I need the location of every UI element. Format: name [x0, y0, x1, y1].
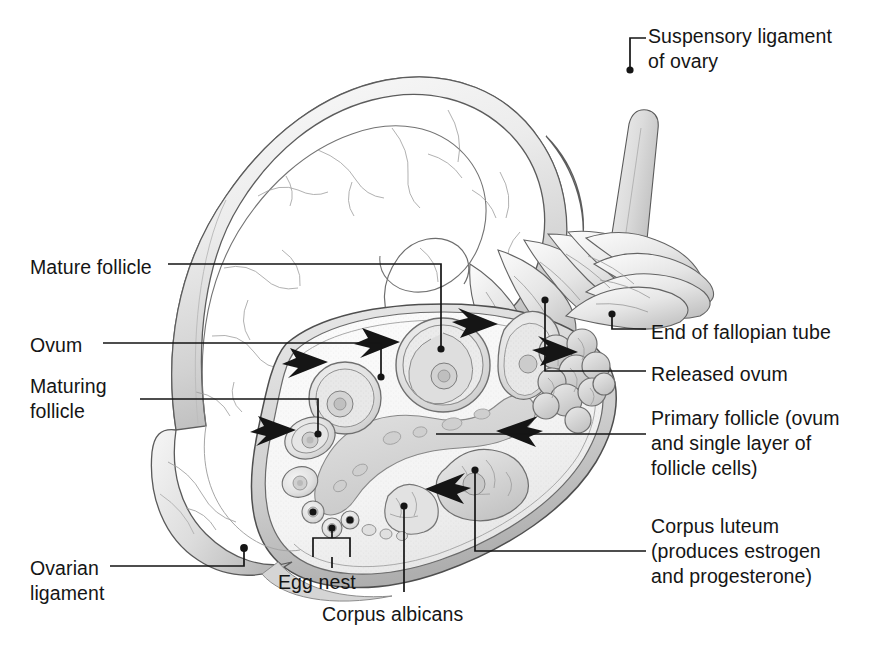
dot-ovum — [377, 373, 384, 380]
dot-corpus-luteum — [471, 466, 478, 473]
illustration-tissue — [151, 77, 713, 601]
suspensory-ligament-leader — [630, 38, 646, 70]
label-egg-nest: Egg nest — [278, 570, 356, 595]
dot-corpus-albicans — [400, 502, 407, 509]
dot-egg-nest-b — [328, 524, 335, 531]
label-mature-follicle: Mature follicle — [30, 255, 152, 280]
label-maturing-follicle: Maturing follicle — [30, 374, 107, 424]
dot-egg-nest-a — [309, 508, 316, 515]
label-corpus-luteum: Corpus luteum (produces estrogen and pro… — [651, 514, 821, 589]
anatomy-diagram: Suspensory ligament of ovary Mature foll… — [0, 0, 894, 655]
label-primary-follicle: Primary follicle (ovum and single layer … — [651, 406, 840, 481]
label-end-of-fallopian-tube: End of fallopian tube — [651, 320, 831, 345]
label-corpus-albicans: Corpus albicans — [322, 602, 463, 627]
dot-mature-follicle — [437, 345, 444, 352]
dot-egg-nest-c — [346, 516, 353, 523]
dot-released-ovum — [541, 296, 548, 303]
dot-suspensory-ligament — [626, 66, 633, 73]
label-released-ovum: Released ovum — [651, 362, 788, 387]
label-suspensory-ligament-of-ovary: Suspensory ligament of ovary — [648, 24, 832, 74]
label-ovarian-ligament: Ovarian ligament — [30, 556, 105, 606]
dot-maturing-follicle — [314, 430, 321, 437]
label-ovum: Ovum — [30, 333, 82, 358]
dot-ovarian-ligament — [240, 544, 248, 552]
dot-end-of-fallopian-tube — [608, 310, 615, 317]
